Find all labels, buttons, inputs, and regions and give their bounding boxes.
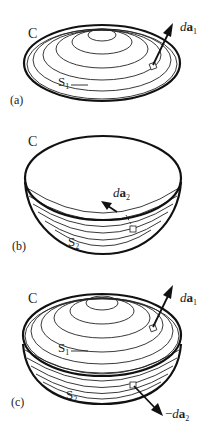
boundary-curve-c: [24, 25, 180, 101]
vector-label-da2: da2: [113, 185, 130, 202]
curve-label-c: C: [28, 291, 37, 306]
panel-c: C da1 S1 S2 (c) −da2: [11, 285, 197, 423]
surface-label-s1: S1: [58, 74, 69, 91]
curve-label-c: C: [28, 134, 37, 149]
surface-s2-contours: [25, 350, 179, 399]
arrow-head-icon: [163, 285, 173, 299]
arrow-head-icon: [163, 23, 173, 37]
vector-label-minus-da2: −da2: [165, 406, 189, 423]
surface-s2-contours: [27, 188, 179, 246]
curve-label-c: C: [28, 26, 37, 41]
vector-label-da1: da1: [180, 19, 197, 36]
surface-s1-contours: [25, 296, 179, 373]
surface-label-s2: S2: [66, 387, 77, 404]
panel-label-c: (c): [11, 395, 24, 409]
panel-label-a: (a): [10, 93, 23, 107]
vector-label-da1: da1: [180, 290, 197, 307]
panel-b: C da2 S2 (b): [12, 134, 181, 254]
panel-label-b: (b): [12, 239, 26, 253]
surface-diagram: C S1 (a) da1 C da2 S2 (b): [0, 0, 210, 428]
normal-arrow-da2: [108, 206, 117, 212]
area-element-patch: [130, 226, 136, 232]
panel-a: C S1 (a) da1: [10, 19, 197, 107]
surface-label-s1: S1: [58, 340, 69, 357]
arrow-head-icon: [101, 201, 112, 210]
normal-arrow-minus-da2: [134, 386, 156, 409]
boundary-curve-c: [25, 136, 181, 220]
